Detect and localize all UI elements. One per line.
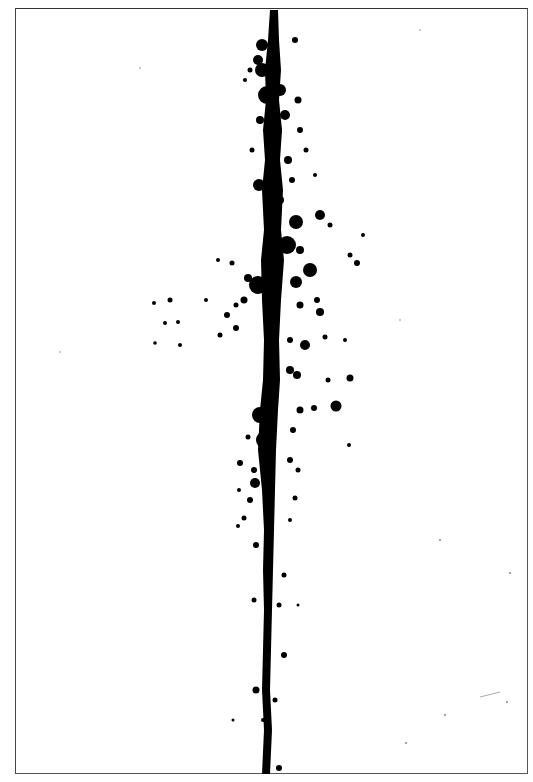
ink-streak xyxy=(480,692,500,697)
background-specks xyxy=(59,29,511,744)
ink-droplets xyxy=(152,37,365,771)
ink-splatter-artwork xyxy=(0,0,533,782)
